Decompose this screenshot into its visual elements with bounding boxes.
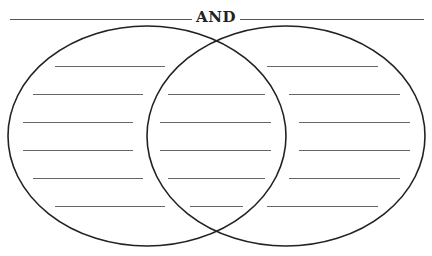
- left-writing-lines[interactable]: [23, 67, 165, 207]
- venn-diagram: [0, 0, 432, 256]
- overlap-writing-lines[interactable]: [160, 95, 271, 207]
- right-writing-lines[interactable]: [267, 67, 410, 207]
